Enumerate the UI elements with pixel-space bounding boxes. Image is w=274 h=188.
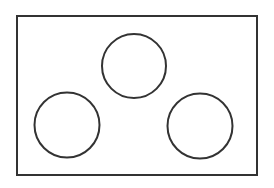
bottom-left-circle xyxy=(35,93,100,158)
circle-group xyxy=(35,34,233,159)
diagram-canvas xyxy=(0,0,274,188)
bottom-right-circle xyxy=(168,94,233,159)
top-circle xyxy=(102,34,166,98)
